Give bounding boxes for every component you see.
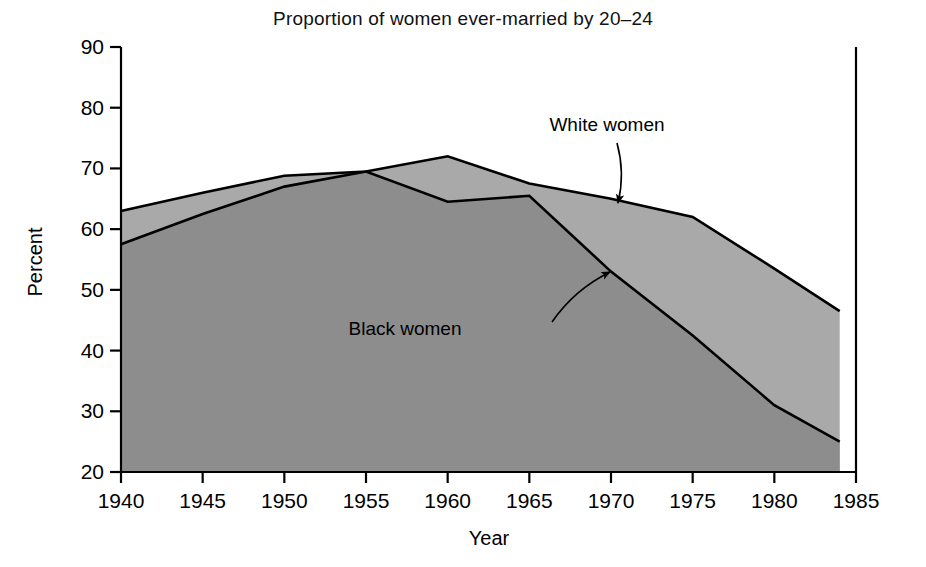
annotation-label: Black women: [349, 318, 462, 339]
y-tick-label: 80: [81, 96, 104, 119]
x-axis-label: Year: [469, 527, 510, 549]
x-tick-label: 1985: [833, 489, 880, 512]
y-axis-tick-labels: 2030405060708090: [81, 35, 104, 483]
x-tick-label: 1980: [751, 489, 798, 512]
x-axis-tick-labels: 1940194519501955196019651970197519801985: [98, 489, 880, 512]
y-axis-ticks: [110, 47, 121, 472]
y-tick-label: 30: [81, 399, 104, 422]
annotation-label: White women: [549, 114, 664, 135]
y-tick-label: 90: [81, 35, 104, 58]
x-tick-label: 1960: [424, 489, 471, 512]
annotation-arrow: [617, 143, 621, 203]
y-tick-label: 50: [81, 278, 104, 301]
y-tick-label: 60: [81, 217, 104, 240]
y-tick-label: 20: [81, 460, 104, 483]
area-fills: [121, 156, 840, 472]
x-tick-label: 1950: [261, 489, 308, 512]
x-tick-label: 1975: [669, 489, 716, 512]
chart-figure: Proportion of women ever-married by 20–2…: [0, 0, 926, 567]
x-tick-label: 1955: [343, 489, 390, 512]
x-axis-ticks: [121, 472, 856, 483]
x-tick-label: 1965: [506, 489, 553, 512]
x-tick-label: 1945: [179, 489, 226, 512]
x-tick-label: 1940: [98, 489, 145, 512]
x-tick-label: 1970: [588, 489, 635, 512]
chart-plot-area: 2030405060708090 19401945195019551960196…: [0, 0, 926, 567]
y-tick-label: 70: [81, 156, 104, 179]
y-axis-label: Percent: [24, 227, 46, 296]
y-tick-label: 40: [81, 339, 104, 362]
